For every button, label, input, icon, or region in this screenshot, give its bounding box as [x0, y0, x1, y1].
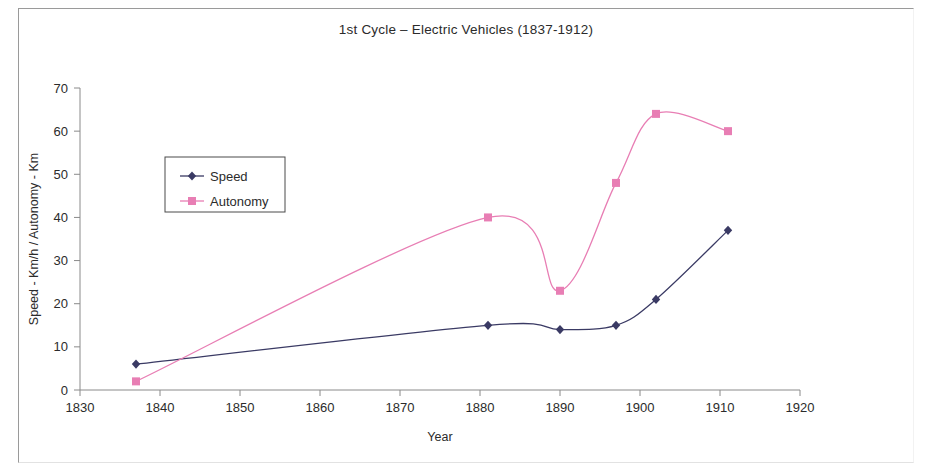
- x-tick-label: 1880: [466, 400, 495, 415]
- data-point-speed-1890: [556, 325, 564, 334]
- x-tick-label: 1840: [146, 400, 175, 415]
- x-tick-label: 1850: [226, 400, 255, 415]
- x-axis-ticks: 1830184018501860187018801890190019101920: [66, 390, 815, 415]
- y-tick-label: 30: [54, 253, 68, 268]
- chart-axes: [80, 88, 800, 390]
- data-point-speed-1837: [132, 360, 140, 369]
- x-axis-title: Year: [427, 430, 452, 444]
- series-line-autonomy: [136, 112, 728, 381]
- x-tick-label: 1830: [66, 400, 95, 415]
- y-tick-label: 10: [54, 339, 68, 354]
- y-tick-label: 70: [54, 81, 68, 96]
- x-tick-label: 1860: [306, 400, 335, 415]
- x-tick-label: 1870: [386, 400, 415, 415]
- y-axis-ticks: 010203040506070: [54, 81, 80, 398]
- legend-label-speed: Speed: [210, 169, 248, 184]
- y-axis-title: Speed - Km/h / Autonomy - Km: [27, 153, 41, 325]
- legend-label-autonomy: Autonomy: [210, 194, 269, 209]
- data-point-autonomy-1890: [556, 287, 564, 295]
- series-speed: [132, 226, 732, 369]
- y-tick-label: 20: [54, 296, 68, 311]
- y-tick-label: 50: [54, 167, 68, 182]
- chart-legend[interactable]: SpeedAutonomy: [165, 157, 285, 212]
- data-point-autonomy-1837: [132, 377, 140, 385]
- x-tick-label: 1910: [706, 400, 735, 415]
- series-autonomy: [132, 110, 732, 385]
- data-series-layer: [132, 110, 732, 385]
- data-point-autonomy-1902: [652, 110, 660, 118]
- x-tick-label: 1890: [546, 400, 575, 415]
- data-point-speed-1897: [612, 321, 620, 330]
- data-point-speed-1881: [484, 321, 492, 330]
- y-tick-label: 60: [54, 124, 68, 139]
- x-tick-label: 1900: [626, 400, 655, 415]
- y-tick-label: 0: [61, 383, 68, 398]
- legend-marker-autonomy: [188, 197, 196, 205]
- data-point-autonomy-1897: [612, 179, 620, 187]
- series-line-speed: [136, 230, 728, 364]
- line-chart: 010203040506070 183018401850186018701880…: [0, 0, 932, 470]
- x-tick-label: 1920: [786, 400, 815, 415]
- y-tick-label: 40: [54, 210, 68, 225]
- data-point-autonomy-1911: [724, 127, 732, 135]
- data-point-autonomy-1881: [484, 213, 492, 221]
